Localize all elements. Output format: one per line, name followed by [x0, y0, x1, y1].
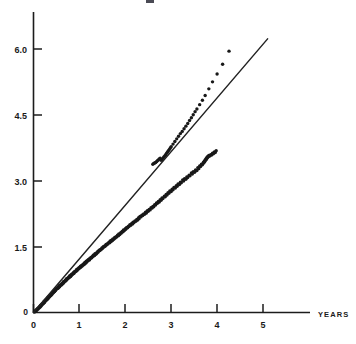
scatter-plot-figure: 6.0 4.5 3.0 1.5 0 0 1 2 3 4 5 YEARS: [0, 0, 356, 344]
scatter-point: [201, 99, 204, 102]
scatter-point: [203, 94, 206, 97]
scatter-point: [195, 107, 198, 110]
y-tick-label-0: 0: [23, 307, 28, 317]
y-tick-label-15: 1.5: [14, 243, 27, 253]
x-tick-label-1: 1: [76, 320, 81, 330]
reference-line: [34, 39, 268, 313]
x-axis-title: YEARS: [318, 310, 349, 319]
x-tick-label-0: 0: [31, 320, 36, 330]
y-tick-label-6: 6.0: [14, 45, 27, 55]
scatter-point: [198, 103, 201, 106]
scatter-point: [186, 122, 189, 125]
scatter-point: [207, 87, 210, 90]
y-axis-tick-labels: 6.0 4.5 3.0 1.5 0: [14, 45, 28, 318]
scatter-point: [227, 49, 230, 52]
scatter-point: [215, 72, 218, 75]
axes-group: [33, 12, 310, 313]
scatter-point: [211, 80, 214, 83]
plot-data-layer: [33, 39, 268, 314]
scatter-points-group: [33, 49, 231, 313]
scatter-point: [214, 149, 217, 152]
scatter-point: [221, 63, 224, 66]
x-tick-label-3: 3: [168, 320, 173, 330]
x-tick-label-2: 2: [122, 320, 127, 330]
x-tick-label-4: 4: [214, 320, 219, 330]
y-tick-label-3: 3.0: [14, 177, 27, 187]
y-tick-label-45: 4.5: [14, 111, 27, 121]
scatter-point: [192, 113, 195, 116]
scatter-point: [190, 116, 193, 119]
x-tick-label-5: 5: [260, 320, 265, 330]
x-axis-ticks: [34, 304, 264, 313]
scatter-point: [153, 161, 156, 164]
y-axis-ticks: [34, 49, 43, 247]
clipped-title-fragment: [146, 0, 154, 3]
x-axis-tick-labels: 0 1 2 3 4 5: [31, 320, 266, 330]
